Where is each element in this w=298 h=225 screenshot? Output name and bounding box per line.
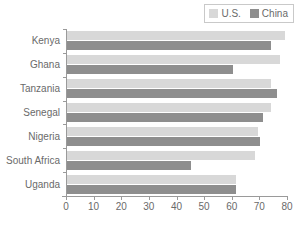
bar-us-ghana (67, 55, 280, 64)
x-axis-tick-label: 30 (143, 202, 154, 212)
y-axis-tick (63, 101, 67, 102)
x-axis-tick (204, 196, 205, 200)
bar-china-nigeria (67, 137, 260, 146)
x-axis-tick (149, 196, 150, 200)
bar-us-senegal (67, 103, 271, 112)
x-axis-tick-label: 10 (88, 202, 99, 212)
bar-group: Nigeria (67, 124, 288, 148)
x-axis-tick (259, 196, 260, 200)
x-axis-tick-label: 70 (254, 202, 265, 212)
bar-group: Uganda (67, 172, 288, 196)
bar-group: Tanzania (67, 77, 288, 101)
category-label: Uganda (25, 180, 60, 190)
legend-swatch-us-icon (209, 9, 218, 18)
legend-label-china: China (262, 9, 288, 19)
y-axis-tick (63, 148, 67, 149)
category-label: Ghana (30, 60, 60, 70)
bar-china-kenya (67, 41, 271, 50)
x-axis-tick (121, 196, 122, 200)
bar-group: Kenya (67, 29, 288, 53)
bar-us-tanzania (67, 79, 271, 88)
y-axis-tick (63, 77, 67, 78)
x-axis-tick-label: 60 (226, 202, 237, 212)
x-axis-tick (66, 196, 67, 200)
x-axis-tick-label: 0 (63, 202, 69, 212)
x-axis-tick (287, 196, 288, 200)
x-axis-tick (232, 196, 233, 200)
y-axis-tick (63, 29, 67, 30)
bar-us-kenya (67, 31, 285, 40)
x-axis-tick (94, 196, 95, 200)
legend-swatch-china-icon (250, 9, 259, 18)
bar-group: South Africa (67, 148, 288, 172)
category-label: Senegal (23, 108, 60, 118)
y-axis-tick (62, 196, 66, 197)
y-axis-tick (63, 53, 67, 54)
category-label: Kenya (32, 36, 60, 46)
y-axis-tick (63, 172, 67, 173)
legend-label-us: U.S. (221, 9, 240, 19)
category-label: Tanzania (20, 84, 60, 94)
bar-china-uganda (67, 185, 236, 194)
x-axis-tick-label: 20 (116, 202, 127, 212)
category-label: Nigeria (28, 132, 60, 142)
bar-group: Ghana (67, 53, 288, 77)
bar-us-nigeria (67, 127, 258, 136)
x-axis-tick-label: 40 (171, 202, 182, 212)
legend-entry-china: China (250, 9, 288, 19)
bar-group: Senegal (67, 101, 288, 125)
x-axis-tick-label: 50 (199, 202, 210, 212)
x-axis-tick (177, 196, 178, 200)
category-label: South Africa (6, 156, 60, 166)
chart-legend: U.S. China (204, 4, 294, 23)
plot-area: KenyaGhanaTanzaniaSenegalNigeriaSouth Af… (66, 29, 288, 196)
legend-entry-us: U.S. (209, 9, 240, 19)
bar-chart: U.S. China KenyaGhanaTanzaniaSenegalNige… (0, 0, 298, 225)
y-axis-tick (63, 124, 67, 125)
bar-china-south-africa (67, 161, 191, 170)
bar-china-ghana (67, 65, 233, 74)
bar-us-south-africa (67, 151, 255, 160)
bar-us-uganda (67, 175, 236, 184)
bar-china-tanzania (67, 89, 277, 98)
x-axis-tick-label: 80 (281, 202, 292, 212)
bar-china-senegal (67, 113, 263, 122)
